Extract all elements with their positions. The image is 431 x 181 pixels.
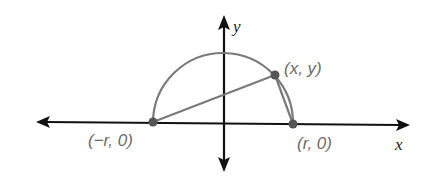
label-neg-r-0: (−r, 0)	[88, 131, 133, 150]
y-axis-label: y	[231, 17, 241, 36]
label-x-y: (x, y)	[284, 59, 322, 78]
point-left	[149, 118, 158, 127]
point-xy	[271, 71, 280, 80]
point-right	[289, 120, 298, 129]
x-axis-label: x	[394, 135, 403, 154]
label-r-0: (r, 0)	[297, 134, 332, 153]
semicircle-diagram: (−r, 0) (x, y) (r, 0) x y	[0, 0, 431, 181]
chord-left-to-point	[153, 75, 275, 122]
